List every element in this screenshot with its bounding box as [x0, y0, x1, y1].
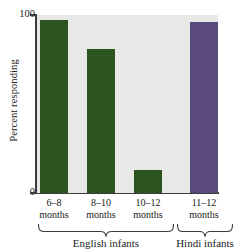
y-axis-title: Percent responding — [8, 26, 19, 176]
bar-6-8-months — [40, 20, 68, 193]
y-tick-mark-100 — [30, 14, 36, 16]
x-category-label-3-line1: 11–12 — [174, 197, 234, 209]
x-category-label-2-line2: months — [118, 209, 178, 221]
bar-8-10-months — [87, 49, 115, 193]
bar-chart-figure: Percent responding 100 0 6–8 months 8–10… — [0, 0, 236, 252]
x-category-label-2: 10–12 months — [118, 197, 178, 221]
plot-area — [37, 15, 218, 193]
group-label-hindi: Hindi infants — [155, 237, 236, 249]
group-bracket-hindi — [176, 224, 234, 237]
bar-11-12-months — [190, 22, 218, 193]
x-category-label-2-line1: 10–12 — [118, 197, 178, 209]
group-label-english: English infants — [46, 237, 166, 249]
group-bracket-english — [37, 224, 175, 237]
y-tick-mark-0 — [30, 192, 36, 194]
x-category-label-3: 11–12 months — [174, 197, 234, 221]
x-category-label-3-line2: months — [174, 209, 234, 221]
bar-10-12-months — [134, 170, 162, 193]
